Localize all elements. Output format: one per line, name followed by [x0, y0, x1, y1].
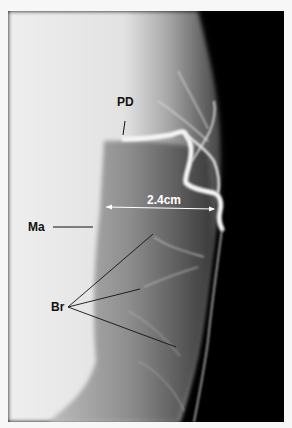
ma-label: Ma: [28, 221, 45, 233]
angiogram-image: PD Ma Br 2.4cm: [8, 11, 284, 422]
pd-label: PD: [117, 96, 134, 108]
br-label: Br: [51, 301, 64, 313]
measurement-label: 2.4cm: [147, 194, 181, 206]
angiogram-graphic: [8, 11, 284, 422]
